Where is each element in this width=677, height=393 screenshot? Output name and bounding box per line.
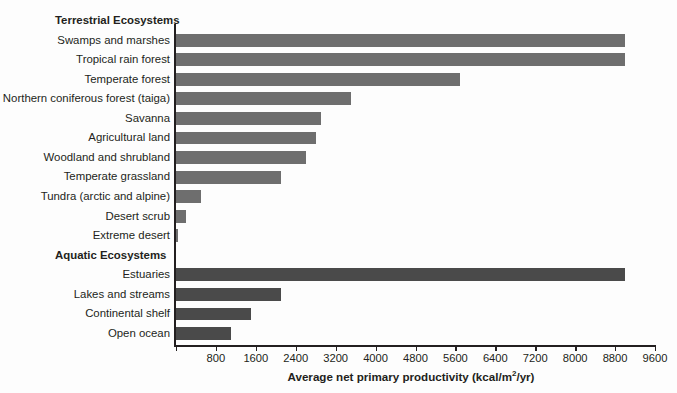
chart-row: Desert scrub bbox=[0, 207, 677, 227]
bar bbox=[176, 327, 231, 340]
x-tick bbox=[575, 345, 576, 351]
x-tick-label: 9600 bbox=[625, 352, 677, 364]
category-label: Tropical rain forest bbox=[0, 50, 170, 70]
chart-row: Swamps and marshes bbox=[0, 31, 677, 51]
x-tick bbox=[615, 345, 616, 351]
category-label: Savanna bbox=[0, 109, 170, 129]
x-axis-title-main: Average net primary productivity (kcal/m bbox=[288, 370, 512, 383]
x-tick bbox=[376, 345, 377, 351]
category-label: Desert scrub bbox=[0, 207, 170, 227]
x-tick bbox=[296, 345, 297, 351]
bar bbox=[176, 112, 321, 125]
bar bbox=[176, 171, 281, 184]
bar bbox=[176, 268, 625, 281]
bar bbox=[176, 210, 186, 223]
x-tick bbox=[455, 345, 456, 351]
category-label: Continental shelf bbox=[0, 304, 170, 324]
x-axis-title-tail: /yr) bbox=[516, 370, 534, 383]
category-label: Extreme desert bbox=[0, 226, 170, 246]
category-label: Temperate grassland bbox=[0, 167, 170, 187]
bar bbox=[176, 92, 351, 105]
bar bbox=[176, 53, 625, 66]
section-header-label: Aquatic Ecosystems bbox=[55, 246, 315, 266]
category-label: Lakes and streams bbox=[0, 285, 170, 305]
chart-row: Savanna bbox=[0, 109, 677, 129]
chart-row: Temperate forest bbox=[0, 70, 677, 90]
section-header-row: Terrestrial Ecosystems bbox=[0, 11, 677, 31]
x-axis-line bbox=[174, 345, 655, 347]
category-label: Estuaries bbox=[0, 265, 170, 285]
x-tick bbox=[655, 345, 656, 351]
bar bbox=[176, 308, 251, 321]
chart-row: Agricultural land bbox=[0, 128, 677, 148]
x-tick bbox=[416, 345, 417, 351]
bar bbox=[176, 34, 625, 47]
bar bbox=[176, 229, 178, 242]
category-label: Open ocean bbox=[0, 324, 170, 344]
x-tick bbox=[495, 345, 496, 351]
bar bbox=[176, 151, 306, 164]
chart-row: Estuaries bbox=[0, 265, 677, 285]
x-tick bbox=[176, 345, 177, 351]
bar-chart: Terrestrial EcosystemsSwamps and marshes… bbox=[0, 0, 677, 393]
bar bbox=[176, 288, 281, 301]
category-label: Temperate forest bbox=[0, 70, 170, 90]
x-tick bbox=[336, 345, 337, 351]
chart-row: Lakes and streams bbox=[0, 285, 677, 305]
category-label: Tundra (arctic and alpine) bbox=[0, 187, 170, 207]
x-tick bbox=[256, 345, 257, 351]
bar bbox=[176, 73, 460, 86]
chart-row: Northern coniferous forest (taiga) bbox=[0, 89, 677, 109]
category-label: Swamps and marshes bbox=[0, 31, 170, 51]
chart-row: Woodland and shrubland bbox=[0, 148, 677, 168]
section-header-row: Aquatic Ecosystems bbox=[0, 246, 677, 266]
section-header-label: Terrestrial Ecosystems bbox=[55, 11, 315, 31]
chart-row: Tropical rain forest bbox=[0, 50, 677, 70]
bar bbox=[176, 190, 201, 203]
category-label: Woodland and shrubland bbox=[0, 148, 170, 168]
x-tick bbox=[535, 345, 536, 351]
chart-row: Continental shelf bbox=[0, 304, 677, 324]
category-label: Northern coniferous forest (taiga) bbox=[0, 89, 170, 109]
chart-row: Tundra (arctic and alpine) bbox=[0, 187, 677, 207]
x-tick bbox=[216, 345, 217, 351]
bar bbox=[176, 132, 316, 145]
chart-row: Open ocean bbox=[0, 324, 677, 344]
chart-row: Temperate grassland bbox=[0, 167, 677, 187]
x-axis-title: Average net primary productivity (kcal/m… bbox=[0, 369, 677, 383]
chart-row: Extreme desert bbox=[0, 226, 677, 246]
category-label: Agricultural land bbox=[0, 128, 170, 148]
